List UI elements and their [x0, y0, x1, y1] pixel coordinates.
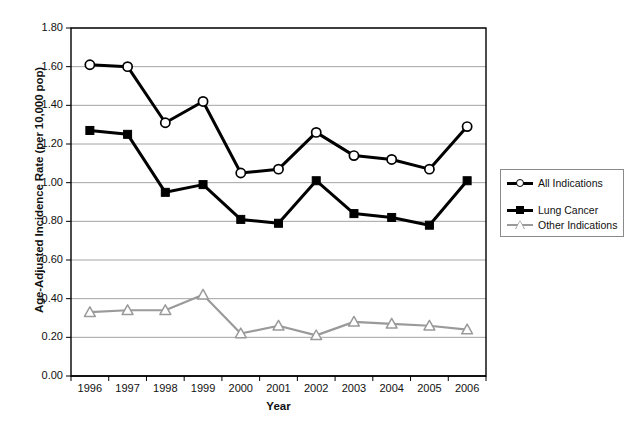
legend-item-lung-cancer[interactable]: Lung Cancer [507, 203, 598, 217]
legend-key-square-icon [507, 204, 533, 216]
legend-label-lung-cancer: Lung Cancer [538, 205, 598, 216]
data-point [198, 289, 209, 299]
data-point [349, 151, 358, 160]
data-point [350, 210, 358, 218]
legend-item-all-indications[interactable]: All Indications [507, 176, 603, 190]
data-point [425, 221, 433, 229]
legend-key-triangle-icon [507, 219, 533, 231]
data-point [199, 181, 207, 189]
series-line [90, 65, 467, 173]
data-point [236, 168, 245, 177]
data-point [85, 60, 94, 69]
data-point [161, 188, 169, 196]
data-point [123, 62, 132, 71]
data-point [124, 130, 132, 138]
series-line [90, 130, 467, 225]
legend-item-other-indications[interactable]: Other Indications [507, 218, 617, 232]
legend-label-other-indications: Other Indications [538, 220, 617, 231]
data-point [275, 219, 283, 227]
data-point [312, 128, 321, 137]
legend-label-all-indications: All Indications [538, 178, 603, 189]
legend-key-circle-icon [507, 177, 533, 189]
data-point [388, 213, 396, 221]
plot-area-wrapper: Age-Adjusted Incidence Rate (per 10,000 … [0, 0, 630, 428]
chart-figure: Age-Adjusted Incidence Rate (per 10,000 … [0, 0, 630, 428]
data-point [273, 320, 284, 330]
data-point [86, 126, 94, 134]
data-point [274, 165, 283, 174]
data-point [237, 215, 245, 223]
data-point [387, 155, 396, 164]
data-point [463, 177, 471, 185]
series-other-indications [84, 289, 472, 339]
data-point [425, 165, 434, 174]
chart-legend: All Indications Lung Cancer Other Indica… [500, 169, 624, 237]
series-lung-cancer [86, 126, 471, 229]
data-point [463, 122, 472, 131]
data-point [312, 177, 320, 185]
data-point [161, 118, 170, 127]
data-point [198, 97, 207, 106]
